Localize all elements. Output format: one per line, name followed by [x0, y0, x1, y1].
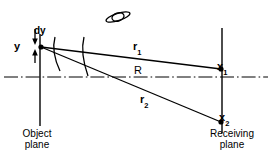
saturn-object-icon [105, 9, 131, 24]
dy-arrow-up [32, 49, 38, 63]
label-receiving-plane: Receiving plane [196, 128, 268, 150]
ray-geometry-diagram: y dy r1 r2 R x1 x2 Object plane Receivin… [0, 0, 271, 167]
label-point-x2-subscript: 2 [225, 119, 229, 128]
label-object-plane: Object plane [6, 128, 68, 150]
label-receiving-plane-line2: plane [196, 139, 268, 150]
label-ray-r1: r1 [133, 41, 141, 55]
label-object-plane-line2: plane [6, 139, 68, 150]
label-receiving-plane-line1: Receiving [196, 128, 268, 139]
label-differential-dy: dy [34, 26, 46, 37]
label-ray-r2-subscript: 2 [144, 101, 148, 110]
label-axis-distance-R: R [134, 65, 142, 77]
label-ray-r1-subscript: 1 [137, 48, 141, 57]
label-point-x2: x2 [219, 112, 229, 126]
label-point-x1: x1 [217, 61, 227, 75]
label-source-height-y: y [14, 41, 20, 53]
label-point-x1-subscript: 1 [223, 68, 227, 77]
wavefront-arc-far [83, 37, 88, 76]
source-point-dot [38, 44, 43, 49]
label-object-plane-line1: Object [6, 128, 68, 139]
label-ray-r2: r2 [140, 94, 148, 108]
